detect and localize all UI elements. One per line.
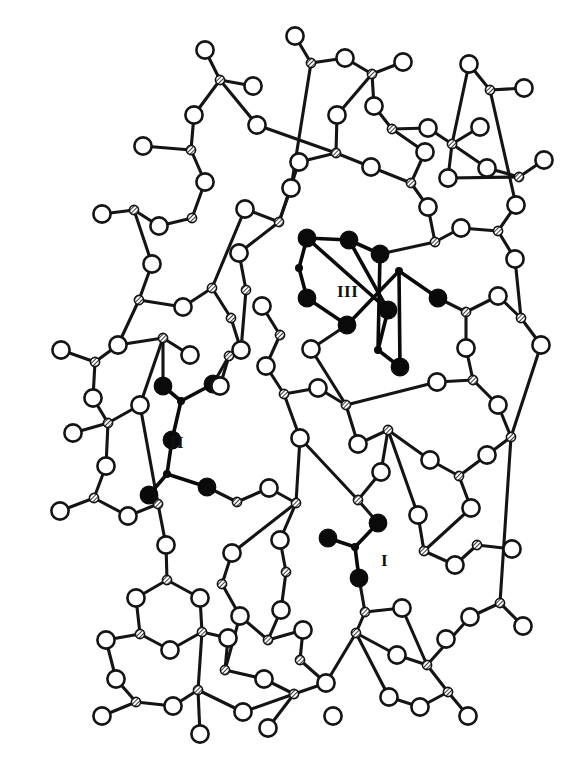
oxygen-node	[164, 697, 181, 714]
cation-node	[263, 635, 272, 644]
oxygen-node	[419, 119, 436, 136]
bond	[399, 271, 400, 367]
oxygen-node	[185, 106, 202, 123]
cation-node	[135, 629, 144, 638]
oxygen-node	[489, 396, 506, 413]
cation-node	[131, 697, 140, 706]
oxygen-node	[409, 506, 426, 523]
oxygen-node	[253, 297, 270, 314]
oxygen-node	[234, 703, 251, 720]
cation-node	[207, 283, 216, 292]
oxygen-node	[131, 396, 148, 413]
oxygen-node	[255, 670, 272, 687]
oxygen-node	[93, 707, 110, 724]
oxygen-node	[394, 53, 411, 70]
oxygen-node	[362, 158, 379, 175]
cation-node	[454, 471, 463, 480]
oxygen-node	[365, 97, 382, 114]
oxygen-node	[372, 463, 389, 480]
highlighted-cation-node	[352, 544, 359, 551]
cation-node	[217, 579, 226, 588]
oxygen-node	[388, 646, 405, 663]
oxygen-node	[324, 707, 341, 724]
oxygen-node	[317, 674, 334, 691]
oxygen-node	[446, 556, 463, 573]
cation-node	[443, 687, 452, 696]
oxygen-node	[460, 55, 477, 72]
cation-node	[468, 375, 477, 384]
oxygen-node	[191, 589, 208, 606]
oxygen-node	[349, 435, 366, 452]
oxygen-node	[437, 630, 454, 647]
cation-node	[360, 607, 369, 616]
cation-node	[461, 307, 470, 316]
oxygen-node	[336, 49, 353, 66]
random-network-diagram	[0, 0, 563, 758]
oxygen-node	[282, 179, 299, 196]
oxygen-node	[271, 531, 288, 548]
oxygen-node	[232, 341, 249, 358]
cation-node	[186, 145, 195, 154]
cation-node	[351, 628, 360, 637]
cation-node	[516, 313, 525, 322]
cation-node	[430, 237, 439, 246]
cation-node	[134, 295, 143, 304]
oxygen-node	[416, 143, 433, 160]
oxygen-node	[257, 357, 274, 374]
highlighted-cation-node	[164, 471, 171, 478]
oxygen-node	[52, 341, 69, 358]
highlighted-oxygen-node	[198, 478, 216, 496]
oxygen-node	[259, 719, 276, 736]
oxygen-node	[272, 601, 289, 618]
highlighted-cation-node	[296, 265, 303, 272]
cation-node	[291, 498, 300, 507]
oxygen-node	[428, 373, 445, 390]
cation-node	[289, 689, 298, 698]
cation-node	[274, 217, 283, 226]
highlighted-oxygen-node	[319, 529, 337, 547]
cation-node	[226, 313, 235, 322]
oxygen-node	[127, 589, 144, 606]
oxygen-node	[109, 336, 126, 353]
cation-node	[306, 58, 315, 67]
oxygen-node	[196, 41, 213, 58]
oxygen-node	[478, 446, 495, 463]
highlighted-cation-node	[396, 268, 403, 275]
highlighted-oxygen-node	[298, 229, 316, 247]
cation-node	[341, 400, 350, 409]
oxygen-node	[506, 250, 523, 267]
oxygen-node	[459, 707, 476, 724]
oxygen-node	[119, 507, 136, 524]
oxygen-node	[161, 641, 178, 658]
cation-node	[90, 357, 99, 366]
oxygen-node	[248, 116, 265, 133]
oxygen-node	[478, 159, 495, 176]
oxygen-node	[260, 479, 277, 496]
oxygen-node	[328, 106, 345, 123]
bond	[500, 437, 511, 603]
highlighted-oxygen-node	[140, 486, 158, 504]
cation-node	[158, 333, 167, 342]
oxygen-node	[93, 205, 110, 222]
oxygen-node	[231, 607, 248, 624]
cation-node	[406, 178, 415, 187]
highlighted-oxygen-node	[369, 514, 387, 532]
cation-node	[422, 660, 431, 669]
highlighted-cation-node	[375, 347, 382, 354]
oxygen-node	[84, 389, 101, 406]
bond	[198, 632, 202, 690]
oxygen-node	[489, 287, 506, 304]
bond	[346, 382, 437, 405]
oxygen-node	[462, 499, 479, 516]
oxygen-node	[393, 599, 410, 616]
oxygen-node	[97, 631, 114, 648]
highlighted-oxygen-node	[298, 289, 316, 307]
cation-node	[103, 418, 112, 427]
oxygen-node	[457, 339, 474, 356]
cation-node	[279, 389, 288, 398]
bond	[490, 90, 516, 205]
oxygen-node	[419, 198, 436, 215]
oxygen-node	[181, 346, 198, 363]
oxygen-node	[51, 502, 68, 519]
ring-label-3: III	[337, 283, 358, 300]
